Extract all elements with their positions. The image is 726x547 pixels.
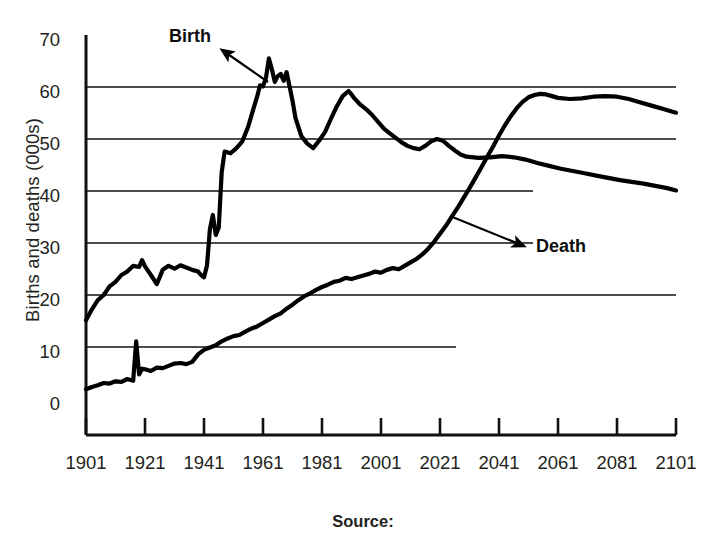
x-tick-label-2101: 2101 bbox=[636, 452, 716, 474]
axes bbox=[86, 35, 676, 435]
chart-figure: Births and deaths (000s) 70 60 50 40 30 … bbox=[0, 0, 726, 547]
x-axis-ticks bbox=[86, 418, 676, 435]
series-label-birth: Birth bbox=[169, 26, 211, 47]
source-caption: Source: bbox=[0, 512, 726, 531]
death-annotation-arrow bbox=[450, 216, 524, 246]
birth-annotation-arrow bbox=[222, 50, 268, 82]
series-label-death: Death bbox=[536, 236, 586, 257]
series-line-death bbox=[86, 94, 676, 389]
